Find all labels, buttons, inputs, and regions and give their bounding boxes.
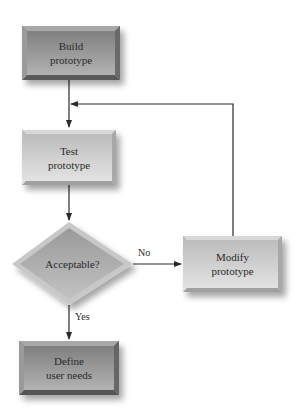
build-line-2: prototype — [50, 53, 92, 67]
test-prototype-label: Test prototype — [22, 130, 116, 185]
build-line-1: Build — [59, 39, 83, 53]
acceptable-label: Acceptable? — [12, 254, 133, 274]
build-prototype-label: Build prototype — [22, 26, 120, 80]
modify-prototype-label: Modify prototype — [183, 236, 282, 292]
test-line-2: prototype — [48, 158, 90, 172]
acceptable-text: Acceptable? — [45, 257, 99, 271]
define-line-2: user needs — [46, 368, 92, 382]
define-line-1: Define — [54, 354, 84, 368]
define-user-needs-label: Define user needs — [19, 341, 119, 395]
edge-label-yes: Yes — [75, 311, 90, 322]
edge-label-no: No — [138, 247, 150, 258]
modify-line-2: prototype — [211, 264, 253, 278]
test-line-1: Test — [60, 144, 78, 158]
modify-line-1: Modify — [216, 250, 249, 264]
